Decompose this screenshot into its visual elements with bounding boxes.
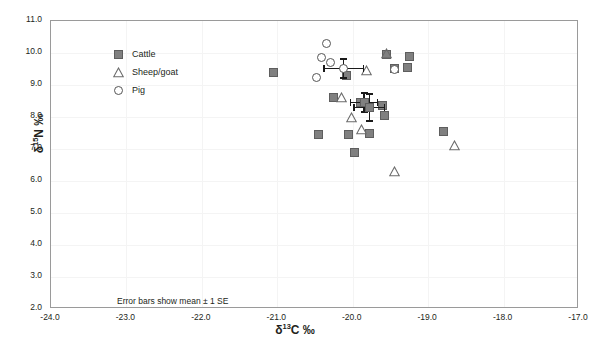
x-tick-label: -23.0 <box>105 313 145 322</box>
data-point-pig <box>390 65 399 74</box>
data-point-pig <box>322 39 331 48</box>
y-tick-label: 9.0 <box>8 79 42 88</box>
data-point-pig <box>326 58 335 67</box>
gridline-horizontal <box>51 117 577 118</box>
data-point-sheep-goat <box>356 124 367 135</box>
data-point-cattle <box>439 127 448 136</box>
data-point-sheep-goat <box>449 140 460 151</box>
errorbar-cap <box>340 58 347 60</box>
gridline-horizontal <box>51 181 577 182</box>
x-tick-label: -18.0 <box>483 313 523 322</box>
x-tick-label: -24.0 <box>30 313 70 322</box>
legend-item-cattle[interactable]: Cattle <box>113 45 213 63</box>
filled-square-icon <box>113 48 125 60</box>
gridline-vertical <box>504 21 505 307</box>
chart-canvas: CattleSheep/goatPig Error bars show mean… <box>0 0 590 346</box>
gridline-horizontal <box>51 149 577 150</box>
errorbar-annotation: Error bars show mean ± 1 SE <box>117 296 228 306</box>
gridline-horizontal <box>51 277 577 278</box>
open-triangle-icon <box>113 66 125 78</box>
y-tick-label: 5.0 <box>8 207 42 216</box>
errorbar-cap <box>363 65 365 72</box>
data-point-cattle <box>269 68 278 77</box>
x-axis-label: δ13C ‰ <box>0 322 590 337</box>
data-point-cattle <box>403 63 412 72</box>
data-point-cattle <box>380 111 389 120</box>
open-circle-icon <box>113 84 125 96</box>
plot-area: CattleSheep/goatPig Error bars show mean… <box>50 20 578 308</box>
data-point-cattle <box>405 52 414 61</box>
data-point-pig <box>317 53 326 62</box>
y-tick-label: 2.0 <box>8 303 42 312</box>
errorbar-cap <box>323 65 325 72</box>
errorbar-cap <box>340 77 347 79</box>
y-axis-label-symbol: δ <box>32 146 46 153</box>
y-tick-label: 4.0 <box>8 239 42 248</box>
data-point-sheep-goat <box>346 112 357 123</box>
data-point-sheep-goat <box>389 166 400 177</box>
data-point-sheep-goat <box>381 48 392 59</box>
x-axis-label-element: C ‰ <box>291 323 315 337</box>
data-point-cattle <box>350 148 359 157</box>
gridline-vertical <box>353 21 354 307</box>
legend-item-label: Sheep/goat <box>132 67 178 77</box>
legend-item-sheep-goat[interactable]: Sheep/goat <box>113 63 213 81</box>
gridline-vertical <box>277 21 278 307</box>
y-tick-label: 11.0 <box>8 15 42 24</box>
data-point-cattle <box>344 130 353 139</box>
x-tick-label: -19.0 <box>407 313 447 322</box>
y-axis-label: δ15N ‰ <box>31 94 46 174</box>
errorbar-cap <box>384 104 386 111</box>
errorbar-cap <box>353 104 355 111</box>
data-point-pig <box>312 73 321 82</box>
errorbar-cap <box>350 99 352 106</box>
y-tick-label: 6.0 <box>8 175 42 184</box>
errorbar-cap <box>366 120 373 122</box>
errorbar-cap <box>366 93 373 95</box>
y-tick-label: 3.0 <box>8 271 42 280</box>
mean-marker <box>339 64 348 73</box>
errorbar-cap <box>377 99 379 106</box>
legend: CattleSheep/goatPig <box>113 45 213 99</box>
x-tick-label: -20.0 <box>332 313 372 322</box>
y-axis-label-element: N ‰ <box>32 114 46 138</box>
y-tick-label: 10.0 <box>8 47 42 56</box>
data-point-cattle <box>314 130 323 139</box>
y-axis-label-superscript: 15 <box>31 138 40 146</box>
x-tick-label: -22.0 <box>181 313 221 322</box>
x-axis-label-superscript: 13 <box>282 322 290 331</box>
mean-marker <box>365 103 374 112</box>
data-point-sheep-goat <box>336 92 347 103</box>
x-tick-label: -21.0 <box>256 313 296 322</box>
legend-item-pig[interactable]: Pig <box>113 81 213 99</box>
x-tick-label: -17.0 <box>558 313 590 322</box>
legend-item-label: Pig <box>132 85 145 95</box>
legend-item-label: Cattle <box>132 49 156 59</box>
gridline-horizontal <box>51 245 577 246</box>
gridline-vertical <box>428 21 429 307</box>
gridline-horizontal <box>51 213 577 214</box>
